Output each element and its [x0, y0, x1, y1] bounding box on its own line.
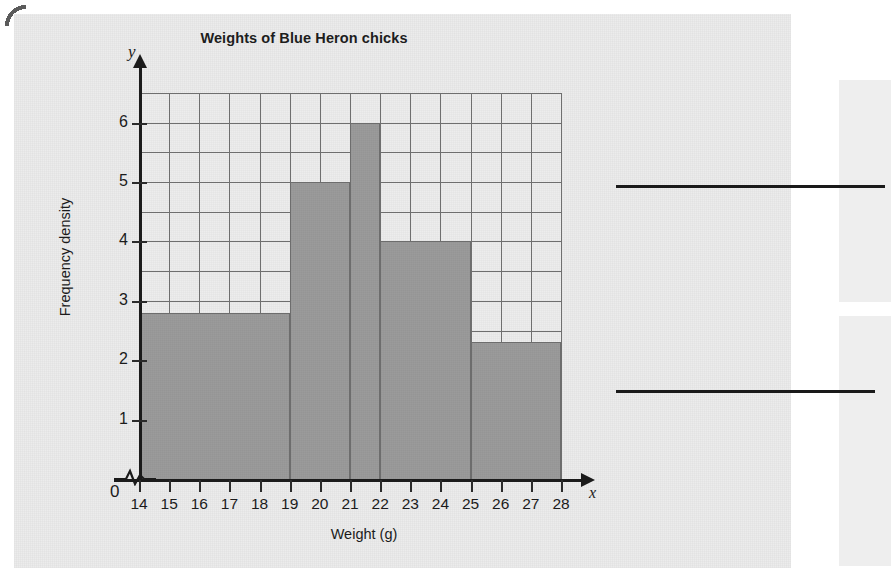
histogram-bar [471, 342, 561, 479]
x-axis-tick [471, 480, 473, 492]
x-axis-tick [139, 480, 141, 492]
y-axis-tick [132, 182, 147, 184]
x-axis-tick [380, 480, 382, 492]
x-axis-tick-label: 15 [154, 495, 184, 513]
y-axis-tick [132, 420, 147, 422]
x-axis-symbol: x [589, 484, 596, 502]
y-axis-tick-label: 3 [106, 291, 128, 309]
page-sheet-right-lower [839, 316, 891, 566]
y-axis-tick-label: 5 [106, 172, 128, 190]
x-axis-tick [320, 480, 322, 492]
y-axis-tick [132, 301, 147, 303]
histogram-bar [290, 182, 350, 479]
x-axis-tick-label: 17 [214, 495, 244, 513]
y-axis-tick [132, 241, 147, 243]
x-axis-tick [561, 480, 563, 492]
y-axis-symbol: y [128, 42, 136, 62]
x-axis-tick [229, 480, 231, 492]
origin-label: 0 [110, 482, 119, 502]
x-axis-tick [169, 480, 171, 492]
x-axis-tick-label: 16 [184, 495, 214, 513]
y-axis-tick-label: 1 [106, 410, 128, 428]
histogram-bar [380, 241, 470, 479]
x-axis-tick-label: 14 [124, 495, 154, 513]
axis-break-icon [114, 466, 156, 486]
y-axis-title: Frequency density [57, 172, 73, 342]
x-axis-tick [531, 480, 533, 492]
y-axis-tick [132, 123, 147, 125]
y-axis-tick-label: 4 [106, 231, 128, 249]
x-axis-tick-label: 27 [516, 495, 546, 513]
x-axis-tick [350, 480, 352, 492]
answer-line[interactable] [616, 390, 875, 393]
page-sheet-right-upper [839, 80, 891, 302]
gridline-vertical [561, 93, 562, 479]
x-axis-tick-label: 25 [456, 495, 486, 513]
x-axis-tick [260, 480, 262, 492]
x-axis-tick-label: 18 [245, 495, 275, 513]
x-axis-title: Weight (g) [214, 526, 514, 542]
x-axis-tick-label: 22 [365, 495, 395, 513]
x-axis-tick-label: 26 [486, 495, 516, 513]
histogram-bar [350, 123, 380, 479]
y-axis-line [139, 62, 142, 481]
x-axis-tick-label: 20 [305, 495, 335, 513]
x-axis-line [114, 479, 584, 482]
x-axis-tick-label: 28 [546, 495, 576, 513]
x-axis-tick [440, 480, 442, 492]
scanned-page: Weights of Blue Heron chicks y x 0 Frequ… [0, 0, 891, 580]
histogram-bar [139, 313, 290, 479]
x-axis-tick-label: 23 [395, 495, 425, 513]
plot-area [139, 93, 561, 479]
chart-title: Weights of Blue Heron chicks [74, 30, 534, 46]
x-axis-tick [410, 480, 412, 492]
x-axis-tick-label: 21 [335, 495, 365, 513]
x-axis-tick-label: 19 [275, 495, 305, 513]
x-axis-tick [501, 480, 503, 492]
x-axis-tick [290, 480, 292, 492]
y-axis-tick-label: 6 [106, 113, 128, 131]
histogram-figure: Weights of Blue Heron chicks y x 0 Frequ… [14, 14, 614, 568]
y-axis-tick-label: 2 [106, 350, 128, 368]
y-axis-tick [132, 360, 147, 362]
x-axis-tick [199, 480, 201, 492]
answer-line[interactable] [616, 185, 885, 188]
x-axis-tick-label: 24 [425, 495, 455, 513]
